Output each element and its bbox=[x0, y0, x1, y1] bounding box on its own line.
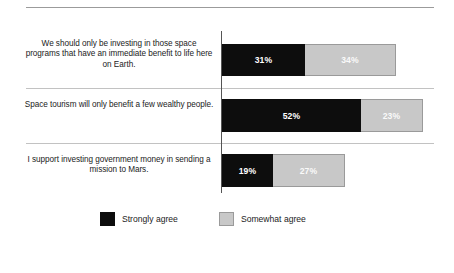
stacked-bar-chart: We should only be investing in those spa… bbox=[0, 0, 454, 273]
bar-value-label: 31% bbox=[255, 55, 273, 65]
bar-segment-somewhat-agree: 27% bbox=[273, 154, 345, 187]
legend-swatch-icon bbox=[100, 212, 115, 226]
stacked-bar: 31% 34% bbox=[222, 44, 396, 76]
bar-value-label: 52% bbox=[283, 111, 301, 121]
legend-item-strongly-agree: Strongly agree bbox=[100, 212, 178, 226]
stacked-bar: 52% 23% bbox=[222, 99, 423, 132]
bar-value-label: 27% bbox=[300, 166, 318, 176]
bar-segment-strongly-agree: 52% bbox=[222, 99, 361, 132]
chart-row: I support investing government money in … bbox=[0, 144, 454, 198]
legend-item-somewhat-agree: Somewhat agree bbox=[219, 212, 306, 226]
bar-segment-somewhat-agree: 34% bbox=[305, 44, 396, 76]
chart-legend: Strongly agree Somewhat agree bbox=[100, 212, 306, 226]
legend-label: Somewhat agree bbox=[241, 214, 306, 224]
chart-row: We should only be investing in those spa… bbox=[0, 33, 454, 88]
top-divider bbox=[26, 7, 434, 8]
category-label: We should only be investing in those spa… bbox=[24, 39, 214, 70]
bar-segment-strongly-agree: 19% bbox=[222, 154, 273, 187]
chart-row: Space tourism will only benefit a few we… bbox=[0, 89, 454, 143]
bar-segment-somewhat-agree: 23% bbox=[361, 99, 423, 132]
legend-label: Strongly agree bbox=[122, 214, 178, 224]
bar-segment-strongly-agree: 31% bbox=[222, 44, 305, 76]
bar-value-label: 34% bbox=[341, 55, 359, 65]
bar-value-label: 19% bbox=[239, 166, 257, 176]
category-label: Space tourism will only benefit a few we… bbox=[24, 100, 214, 110]
stacked-bar: 19% 27% bbox=[222, 154, 345, 187]
bar-value-label: 23% bbox=[383, 111, 401, 121]
category-label: I support investing government money in … bbox=[24, 155, 214, 176]
legend-swatch-icon bbox=[219, 212, 234, 226]
